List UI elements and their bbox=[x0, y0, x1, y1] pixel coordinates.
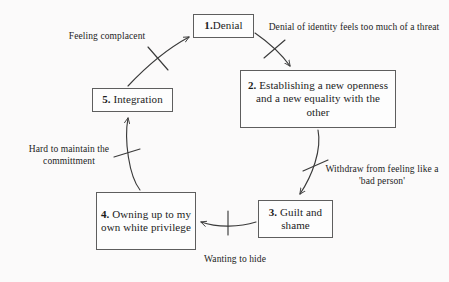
node-5-number: 5. bbox=[102, 93, 110, 105]
node-5-label: Integration bbox=[111, 93, 163, 105]
node-2-label: Establishing a new openness and a new eq… bbox=[256, 79, 388, 118]
node-2-establishing-openness[interactable]: 2. Establishing a new openness and a new… bbox=[240, 70, 396, 128]
edge-label-guilt-to-owning-up: Wanting to hide bbox=[170, 254, 300, 266]
arrow-1-to-2 bbox=[255, 33, 290, 66]
node-3-guilt-and-shame[interactable]: 3. Guilt and shame bbox=[258, 200, 333, 238]
node-4-label: Owning up to my own white privilege bbox=[101, 208, 191, 233]
node-1-label: Denial bbox=[213, 19, 243, 32]
node-1-denial[interactable]: 1. Denial bbox=[193, 14, 254, 38]
node-5-integration[interactable]: 5. Integration bbox=[92, 88, 173, 112]
node-3-label: Guilt and shame bbox=[277, 206, 322, 231]
node-3-number: 3. bbox=[269, 206, 277, 218]
edge-label-owning-up-to-integration: Hard to maintain the committment bbox=[8, 144, 130, 168]
node-4-owning-up-white-privilege[interactable]: 4. Owning up to my own white privilege bbox=[96, 192, 196, 250]
arrow-2-to-3 bbox=[300, 130, 319, 194]
node-1-number: 1. bbox=[204, 19, 212, 32]
arrow-5-to-1 bbox=[128, 37, 189, 86]
edge-label-denial-to-establishing: Denial of identity feels too much of a t… bbox=[268, 22, 440, 34]
cycle-diagram: 1. Denial 2. Establishing a new openness… bbox=[0, 0, 449, 282]
edge-label-establishing-to-guilt: Withdraw from feeling like a 'bad person… bbox=[318, 164, 446, 188]
edge-label-integration-to-denial: Feeling complacent bbox=[48, 31, 166, 43]
tick-5-to-1 bbox=[148, 47, 168, 70]
